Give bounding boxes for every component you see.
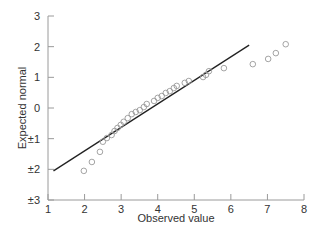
data-point [221, 65, 227, 71]
y-tick-label: ±2 [28, 163, 40, 175]
data-point [283, 41, 289, 47]
y-tick-label: 2 [34, 41, 40, 53]
y-tick-label: ±1 [28, 133, 40, 145]
x-axis-title: Observed value [137, 212, 214, 224]
x-tick-label: 3 [118, 203, 124, 215]
x-tick-label: 1 [45, 203, 51, 215]
data-points [81, 41, 288, 173]
y-tick-label: 1 [34, 71, 40, 83]
data-point [81, 168, 87, 174]
reference-fit-line [53, 45, 249, 171]
y-axis: 3210±1±2±3 [28, 10, 54, 206]
data-point [265, 56, 271, 62]
y-axis-title: Expected normal [16, 67, 28, 150]
x-tick-label: 6 [228, 203, 234, 215]
y-tick-label: 3 [34, 10, 40, 22]
data-point [273, 50, 279, 56]
x-tick-label: 7 [264, 203, 270, 215]
normal-probability-plot: 3210±1±2±3 12345678 Observed value Expec… [0, 0, 322, 237]
x-tick-label: 2 [82, 203, 88, 215]
y-tick-label: ±3 [28, 194, 40, 206]
x-tick-label: 8 [301, 203, 307, 215]
data-point [250, 61, 256, 67]
data-point [97, 149, 103, 155]
data-point [89, 159, 95, 165]
data-point [151, 98, 157, 104]
y-tick-label: 0 [34, 102, 40, 114]
